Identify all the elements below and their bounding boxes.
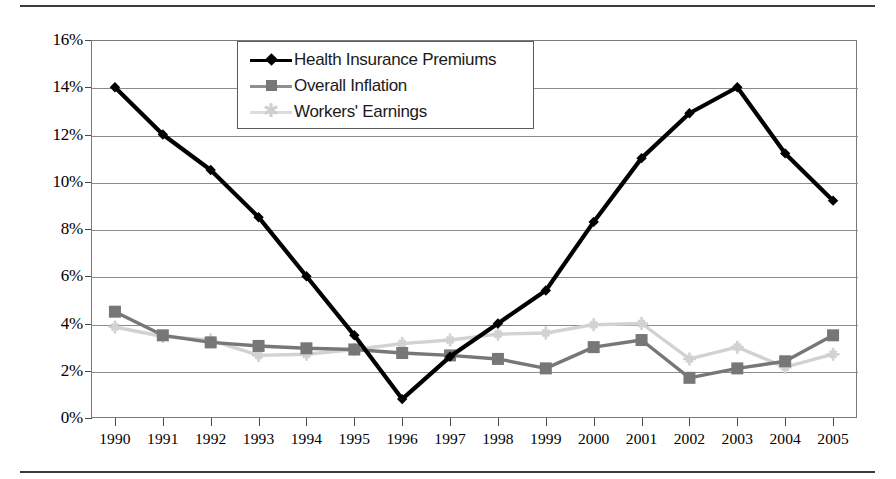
legend-item-overall-inflation: Overall Inflation xyxy=(248,73,533,99)
x-axis-tick-mark xyxy=(833,418,834,426)
y-axis-tick-label: 12% xyxy=(37,126,83,143)
data-point-marker xyxy=(731,362,743,374)
y-axis-tick-label: 10% xyxy=(37,173,83,190)
x-axis-tick-label: 1999 xyxy=(519,430,573,447)
x-axis-tick-mark xyxy=(450,418,451,426)
y-axis-tick-label: 14% xyxy=(37,78,83,95)
data-point-marker xyxy=(492,353,504,365)
x-axis-tick-label: 1992 xyxy=(184,430,238,447)
x-axis-tick-label: 1991 xyxy=(136,430,190,447)
data-point-marker xyxy=(444,334,457,347)
series-line xyxy=(115,87,833,399)
star-marker-icon: ✱ xyxy=(248,102,294,122)
y-axis-tick-label: 0% xyxy=(37,409,83,426)
x-axis-tick-label: 1994 xyxy=(279,430,333,447)
x-axis-tick-mark xyxy=(642,418,643,426)
series-line xyxy=(115,324,833,368)
data-point-marker xyxy=(827,329,839,341)
legend-label: Workers' Earnings xyxy=(294,102,427,122)
data-point-marker xyxy=(348,343,360,355)
x-axis-tick-mark xyxy=(594,418,595,426)
x-axis-tick-mark xyxy=(402,418,403,426)
legend-label: Health Insurance Premiums xyxy=(294,50,496,70)
data-point-marker xyxy=(396,347,408,359)
data-point-marker xyxy=(587,318,600,331)
x-axis-tick-label: 2001 xyxy=(615,430,669,447)
x-axis-tick-mark xyxy=(259,418,260,426)
data-point-marker xyxy=(539,326,552,339)
x-axis-tick-label: 2004 xyxy=(758,430,812,447)
x-axis-tick-mark xyxy=(354,418,355,426)
legend-label: Overall Inflation xyxy=(294,76,407,96)
x-axis-tick-mark xyxy=(785,418,786,426)
x-axis-tick-mark xyxy=(163,418,164,426)
x-axis-tick-mark xyxy=(498,418,499,426)
data-point-marker xyxy=(636,334,648,346)
series-overall-inflation xyxy=(109,306,839,384)
data-point-marker xyxy=(300,342,312,354)
data-point-marker xyxy=(827,348,840,361)
data-point-marker xyxy=(731,341,744,354)
y-axis-tick-mark xyxy=(85,418,92,419)
x-axis-tick-label: 1990 xyxy=(88,430,142,447)
x-axis-tick-label: 1993 xyxy=(232,430,286,447)
diamond-marker-icon xyxy=(248,50,294,70)
square-marker-icon xyxy=(248,76,294,96)
legend-item-health-insurance-premiums: Health Insurance Premiums xyxy=(248,47,533,73)
data-point-marker xyxy=(540,362,552,374)
x-axis-tick-label: 2005 xyxy=(806,430,860,447)
data-point-marker xyxy=(683,372,695,384)
data-point-marker xyxy=(588,341,600,353)
x-axis-tick-label: 1995 xyxy=(327,430,381,447)
chart-legend: Health Insurance Premiums Overall Inflat… xyxy=(237,41,534,129)
y-axis-tick-label: 6% xyxy=(37,267,83,284)
figure-container: 0%2%4%6%8%10%12%14%16% 19901991199219931… xyxy=(0,0,896,479)
x-axis-tick-mark xyxy=(115,418,116,426)
y-axis-tick-label: 2% xyxy=(37,362,83,379)
x-axis-tick-label: 1997 xyxy=(423,430,477,447)
data-point-marker xyxy=(157,329,169,341)
data-point-marker xyxy=(491,328,504,341)
y-axis-tick-label: 4% xyxy=(37,315,83,332)
y-axis-tick-label: 8% xyxy=(37,220,83,237)
y-axis-label-group: 0%2%4%6%8%10%12%14%16% xyxy=(25,0,83,479)
x-axis-tick-label: 2003 xyxy=(710,430,764,447)
data-point-marker xyxy=(109,306,121,318)
data-point-marker xyxy=(205,336,217,348)
series-line xyxy=(115,312,833,378)
x-axis-tick-label: 1998 xyxy=(471,430,525,447)
x-axis-tick-mark xyxy=(689,418,690,426)
x-axis-tick-label: 1996 xyxy=(375,430,429,447)
data-point-marker xyxy=(253,340,265,352)
top-horizontal-rule xyxy=(20,5,875,7)
series-workers-earnings xyxy=(108,317,839,374)
bottom-horizontal-rule xyxy=(20,471,875,473)
data-point-marker xyxy=(108,321,121,334)
x-axis-tick-label: 2000 xyxy=(567,430,621,447)
x-axis-tick-mark xyxy=(211,418,212,426)
legend-item-workers-earnings: ✱ Workers' Earnings xyxy=(248,99,533,125)
data-point-marker xyxy=(779,355,791,367)
x-axis-tick-label: 2002 xyxy=(662,430,716,447)
x-axis-tick-mark xyxy=(306,418,307,426)
x-axis-tick-mark xyxy=(546,418,547,426)
y-axis-tick-label: 16% xyxy=(37,31,83,48)
x-axis-tick-mark xyxy=(737,418,738,426)
